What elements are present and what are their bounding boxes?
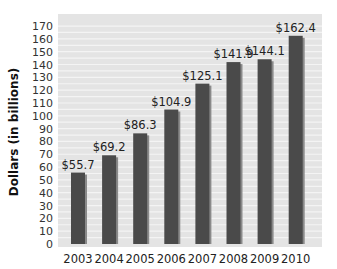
y-tick-label: 10 [39,225,53,238]
bar-2008 [227,62,241,244]
bar-chart: 0102030405060708090100110120130140150160… [0,0,337,269]
y-tick-label: 120 [32,84,53,97]
y-tick-label: 90 [39,123,53,136]
value-label: $144.1 [244,44,284,58]
y-tick-label: 160 [32,33,53,46]
bar-2003 [71,173,85,244]
bar-2010 [289,36,303,244]
x-tick-label: 2010 [281,252,310,266]
value-label: $104.9 [151,95,191,109]
y-tick-label: 30 [39,200,53,213]
y-tick-label: 130 [32,71,53,84]
y-tick-label: 170 [32,20,53,33]
bar-2004 [102,155,116,244]
x-axis-ticks: 20032004200520062007200820092010 [63,252,310,266]
value-label: $86.3 [124,118,157,132]
x-tick-label: 2004 [94,252,123,266]
bar-2005 [133,133,147,244]
bar-2006 [164,110,178,244]
x-tick-label: 2008 [219,252,248,266]
value-label: $125.1 [182,69,222,83]
x-tick-label: 2006 [157,252,186,266]
y-tick-label: 70 [39,148,53,161]
x-tick-label: 2009 [250,252,279,266]
y-tick-label: 50 [39,174,53,187]
y-tick-label: 140 [32,59,53,72]
y-tick-label: 60 [39,161,53,174]
x-tick-label: 2007 [188,252,217,266]
y-axis-ticks: 0102030405060708090100110120130140150160… [32,20,53,251]
x-tick-label: 2003 [63,252,92,266]
value-label: $162.4 [276,21,316,35]
y-tick-label: 0 [46,238,53,251]
y-axis-label: Dollars (in billions) [7,68,21,197]
bar-2009 [258,59,272,244]
bar-2007 [195,84,209,244]
x-tick-label: 2005 [126,252,155,266]
y-tick-label: 150 [32,46,53,59]
y-tick-label: 110 [32,97,53,110]
y-tick-label: 80 [39,135,53,148]
value-label: $69.2 [93,140,126,154]
y-tick-label: 20 [39,212,53,225]
value-label: $55.7 [62,158,95,172]
y-tick-label: 40 [39,187,53,200]
y-tick-label: 100 [32,110,53,123]
